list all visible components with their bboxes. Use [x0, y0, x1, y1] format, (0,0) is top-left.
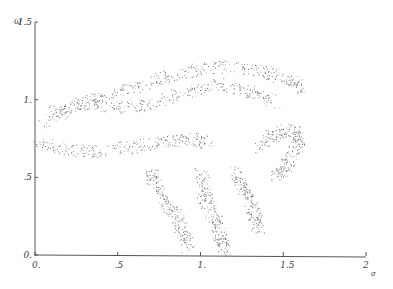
scatter-points	[33, 61, 305, 257]
x-tick-label: 1.5	[280, 260, 295, 270]
x-tick-label: 0.	[32, 260, 41, 270]
x-tick-label: 1.	[198, 260, 207, 270]
y-tick-label: .5	[23, 172, 32, 182]
x-tick-label: 2	[362, 260, 369, 270]
y-axis-title: ω	[14, 16, 22, 26]
x-tick-label: .5	[115, 260, 124, 270]
y-tick-label: 1.	[23, 95, 32, 105]
x-ticks: 0..51.1.52	[32, 252, 369, 270]
x-axis-title: σ	[371, 270, 376, 278]
scatter-chart: 0..51.1.5 0..51.1.52 ω σ	[0, 0, 393, 289]
y-tick-label: 0.	[23, 250, 32, 260]
